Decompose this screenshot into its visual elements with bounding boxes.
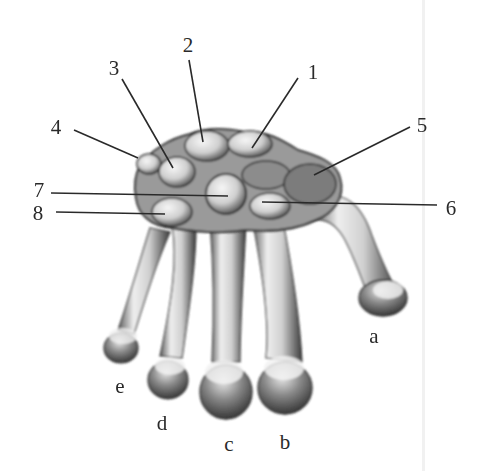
carpals [135, 129, 342, 232]
trapezoid [242, 161, 290, 189]
label-6: 6 [446, 198, 457, 219]
hamate [152, 198, 192, 226]
label-c: c [224, 434, 233, 455]
label-7: 7 [34, 180, 45, 201]
hand-bones-figure: 1 2 3 4 5 6 7 8 a b c d e [0, 0, 479, 471]
label-b: b [280, 432, 291, 453]
label-1: 1 [308, 62, 319, 83]
label-2: 2 [183, 35, 194, 56]
label-a: a [369, 326, 378, 347]
metacarpal-c [200, 222, 252, 419]
leader-line-5 [314, 127, 410, 175]
label-5: 5 [417, 115, 428, 136]
label-4: 4 [51, 117, 62, 138]
label-3: 3 [109, 58, 120, 79]
capitate [206, 174, 246, 214]
metacarpal-e [104, 228, 170, 363]
lunate [185, 131, 229, 161]
pisiform [137, 154, 161, 174]
label-d: d [157, 413, 168, 434]
leader-line-2 [189, 60, 203, 142]
scaphoid [228, 131, 272, 157]
label-e: e [115, 376, 124, 397]
metacarpal-b [252, 216, 312, 414]
trapezoid-surface [250, 193, 290, 219]
leader-line-4 [74, 130, 138, 158]
trapezium [284, 164, 336, 204]
triquetrum [159, 157, 195, 187]
label-8: 8 [33, 203, 44, 224]
bone-illustration [0, 0, 479, 471]
